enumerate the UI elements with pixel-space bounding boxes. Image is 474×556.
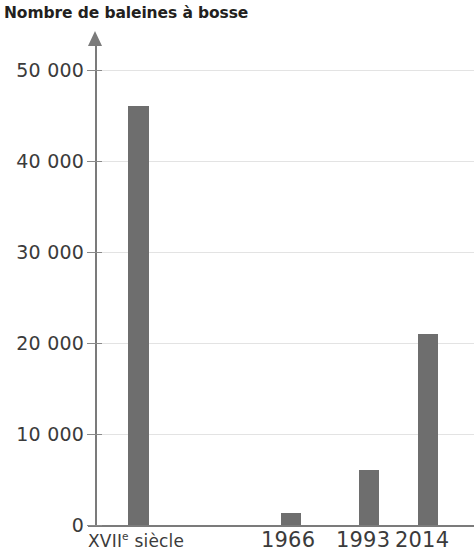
plot-area [95,70,474,525]
bar-chart: Nombre de baleines à bosse 010 00020 000… [0,0,474,556]
bar [359,470,379,525]
y-axis-tick-label: 20 000 [2,332,84,354]
y-axis-tick-label: 40 000 [2,150,84,172]
y-axis-tick [87,252,102,253]
bar [281,513,301,525]
y-axis-tick [87,343,102,344]
x-axis-tick-label: 2014 [395,528,449,552]
x-axis-tick-label: 1966 [261,528,315,552]
x-axis-tick-labels: XVIIe siècle196619932014 [0,528,474,556]
gridline [95,252,474,253]
gridline [95,70,474,71]
y-axis-tick [87,70,102,71]
x-axis-tick-label: 1993 [336,528,390,552]
y-axis-tick-label: 50 000 [2,59,84,81]
y-axis-tick [87,161,102,162]
y-axis-tick [87,434,102,435]
gridline [95,161,474,162]
bar [418,334,438,525]
y-axis-tick-label: 30 000 [2,241,84,263]
y-axis-tick-label: 10 000 [2,423,84,445]
bar [128,106,149,525]
y-axis-tick [87,525,102,526]
y-axis-tick-labels: 010 00020 00030 00040 00050 000 [0,0,84,556]
x-axis-line [88,525,474,527]
x-axis-tick-label: XVIIe siècle [88,531,184,551]
